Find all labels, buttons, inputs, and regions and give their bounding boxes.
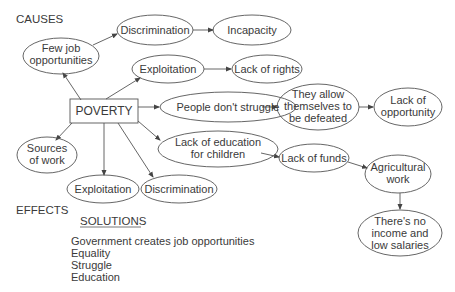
label-discrimination-top: Discrimination — [120, 24, 189, 36]
label-incapacity: Incapacity — [227, 24, 277, 36]
effects-heading: EFFECTS — [16, 204, 68, 216]
edge-poverty-discrimination-bottom — [118, 123, 153, 177]
causes-heading: CAUSES — [16, 13, 63, 25]
label-people-dont-struggle: People don't struggle — [176, 101, 279, 113]
label-agricultural-work: Agriculturalwork — [370, 161, 425, 185]
edge-poverty-exploitation — [106, 78, 140, 99]
edge-poverty-sources — [56, 123, 72, 140]
solution-item: Struggle — [71, 259, 112, 271]
label-lack-of-education: Lack of educationfor children — [175, 136, 261, 160]
label-lack-of-opportunity: Lack ofopportunity — [381, 94, 436, 118]
label-allow-defeated: They allowthemselves tobe defeated — [284, 88, 352, 124]
edge-poverty-education — [138, 121, 160, 140]
label-exploitation-top: Exploitation — [140, 63, 197, 75]
label-discrimination-bottom: Discrimination — [144, 183, 213, 195]
edge-fewjobs-discrimination — [93, 34, 117, 45]
label-sources-of-work: Sourcesof work — [27, 142, 68, 166]
edge-funds-agricultural — [348, 162, 367, 168]
label-poverty: POVERTY — [75, 104, 132, 118]
solution-item: Education — [71, 271, 120, 283]
label-no-income: There's noincome andlow salaries — [371, 215, 429, 251]
solution-item: Government creates job opportunities — [71, 235, 254, 247]
edge-poverty-fewjobs — [63, 73, 81, 100]
label-exploitation-bottom: Exploitation — [75, 183, 132, 195]
concept-map: Discrimination Incapacity Few jobopportu… — [0, 0, 455, 292]
label-lack-of-funds: Lack of funds — [281, 152, 347, 164]
label-few-jobs: Few jobopportunities — [30, 42, 93, 66]
solutions-heading: SOLUTIONS — [80, 215, 146, 227]
solution-item: Equality — [71, 247, 110, 259]
label-lack-of-rights: Lack of rights — [234, 63, 300, 75]
